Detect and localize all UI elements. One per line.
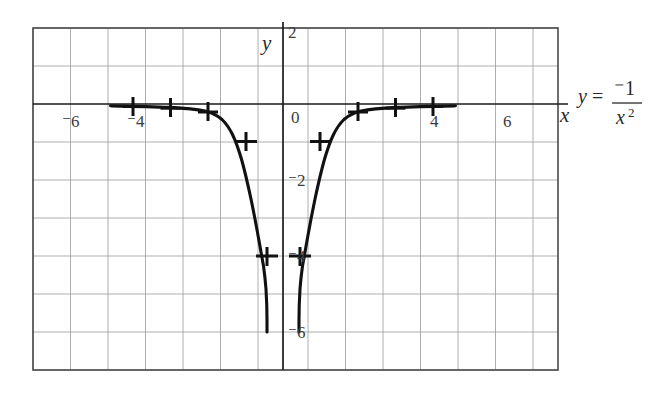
y-tick-label-positive-2: 2 (288, 23, 297, 42)
equation-equals: = (592, 85, 603, 107)
equation-denominator-exponent: 2 (628, 105, 635, 120)
figure-background (0, 0, 664, 397)
x-tick-label-negative-4: ⁻4 (127, 112, 145, 131)
x-tick-label-positive-6: 6 (503, 112, 512, 131)
coordinate-plane-svg: ⁻6 ⁻4 4 6 0 2 ⁻2 ⁻4 ⁻6 y x y = ⁻1 x 2 (0, 0, 664, 397)
y-tick-label-negative-6: ⁻6 (288, 323, 306, 342)
x-tick-label-negative-6: ⁻6 (62, 112, 80, 131)
equation-lhs: y (576, 85, 587, 108)
origin-label: 0 (291, 108, 300, 127)
y-tick-label-negative-2: ⁻2 (288, 171, 306, 190)
equation-numerator: ⁻1 (614, 77, 635, 99)
y-tick-label-negative-4: ⁻4 (288, 247, 306, 266)
x-axis-label: x (559, 103, 570, 127)
x-tick-label-positive-4: 4 (430, 112, 439, 131)
y-axis-label: y (260, 31, 272, 55)
equation-denominator-base: x (615, 106, 625, 128)
graph-figure: ⁻6 ⁻4 4 6 0 2 ⁻2 ⁻4 ⁻6 y x y = ⁻1 x 2 (0, 0, 664, 397)
